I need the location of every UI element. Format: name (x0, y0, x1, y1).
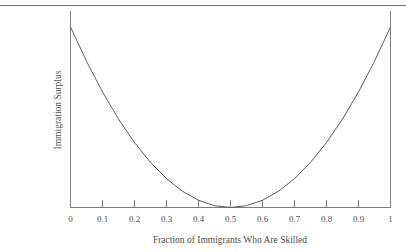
x-tick-label-6: 0.6 (257, 214, 269, 224)
x-tick-label-5: 0.5 (225, 214, 237, 224)
x-axis-title: Fraction of Immigrants Who Are Skilled (153, 235, 307, 245)
x-tick-label-4: 0.4 (193, 214, 205, 224)
chart-plot-area: 0 0.1 0.2 0.3 0.4 0.5 0.6 0.7 0.8 0.9 1 … (0, 0, 406, 252)
x-tick-label-10: 1 (388, 214, 393, 224)
x-tick-label-0: 0 (68, 214, 73, 224)
figure-container: 0 0.1 0.2 0.3 0.4 0.5 0.6 0.7 0.8 0.9 1 … (0, 0, 406, 252)
x-tick-label-3: 0.3 (161, 214, 173, 224)
x-tick-label-2: 0.2 (129, 214, 140, 224)
immigration-surplus-curve (71, 27, 391, 208)
x-tick-label-1: 0.1 (97, 214, 108, 224)
y-axis-title: Immigration Surplus (53, 70, 63, 149)
x-tick-label-8: 0.8 (321, 214, 333, 224)
x-tick-label-9: 0.9 (353, 214, 365, 224)
x-tick-label-7: 0.7 (289, 214, 301, 224)
